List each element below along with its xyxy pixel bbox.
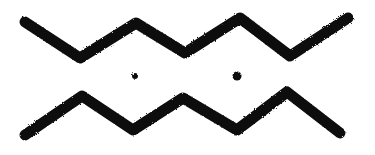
zigzag-dots-icon (0, 0, 375, 155)
symbol-canvas: Two zigzag lines with two dots (0, 0, 375, 155)
right-dot (233, 72, 242, 81)
top-zigzag-line (25, 18, 348, 58)
left-dot (132, 73, 138, 79)
bottom-zigzag-line (25, 92, 340, 135)
